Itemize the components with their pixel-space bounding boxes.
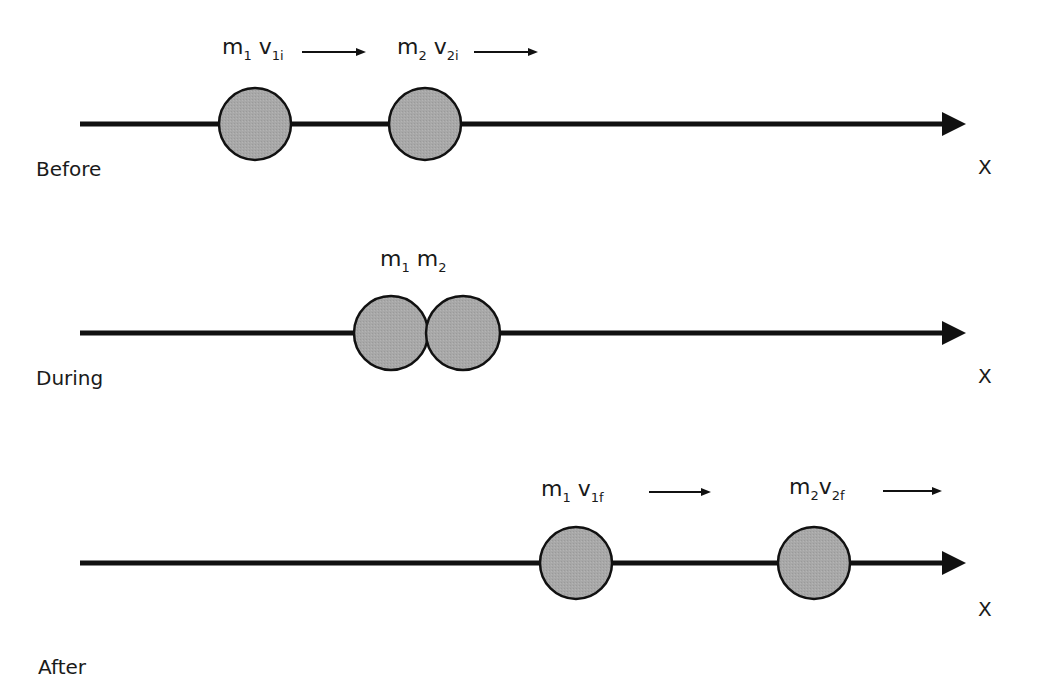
velocity-symbol: v — [434, 34, 447, 59]
velocity-symbol: v — [259, 34, 272, 59]
mass-subscript: 1 — [562, 490, 570, 505]
ball-m1 — [354, 296, 428, 370]
mass-subscript: 2 — [810, 488, 818, 503]
mass-symbol: m — [222, 34, 243, 59]
velocity-subscript: 2i — [447, 48, 459, 63]
mass-symbol: m — [541, 476, 562, 501]
mass-symbol: m — [397, 34, 418, 59]
ball-m1 — [219, 88, 291, 160]
during-row — [80, 296, 966, 370]
velocity-arrowhead-icon — [356, 48, 366, 56]
mass-subscript: 2 — [438, 260, 446, 275]
velocity-subscript: 1i — [272, 48, 284, 63]
velocity-symbol: v — [578, 476, 591, 501]
ball-m1 — [540, 527, 612, 599]
before-row — [80, 48, 966, 160]
label-m1-m2: m1 m2 — [380, 246, 446, 271]
mass-subscript: 1 — [243, 48, 251, 63]
mass-symbol: m — [380, 246, 401, 271]
after-row — [80, 487, 966, 599]
mass-symbol: m — [789, 474, 810, 499]
velocity-arrowhead-icon — [701, 488, 711, 496]
velocity-arrowhead-icon — [932, 487, 942, 495]
mass-subscript: 1 — [401, 260, 409, 275]
axis-arrowhead-icon — [942, 321, 966, 345]
x-axis-label: X — [978, 364, 992, 388]
ball-m2 — [389, 88, 461, 160]
velocity-subscript: 1f — [591, 490, 604, 505]
label-m2-v2i: m2 v2i — [397, 34, 459, 59]
stage-label-after: After — [38, 655, 86, 679]
ball-m2 — [778, 527, 850, 599]
mass-subscript: 2 — [418, 48, 426, 63]
velocity-symbol: v — [819, 474, 832, 499]
label-m1-v1f: m1 v1f — [541, 476, 604, 501]
collision-diagram — [0, 0, 1038, 680]
axis-arrowhead-icon — [942, 551, 966, 575]
ball-m2 — [426, 296, 500, 370]
stage-label-during: During — [36, 366, 103, 390]
velocity-subscript: 2f — [832, 488, 845, 503]
x-axis-label: X — [978, 155, 992, 179]
axis-arrowhead-icon — [942, 112, 966, 136]
label-m2-v2f: m2v2f — [789, 474, 845, 499]
x-axis-label: X — [978, 597, 992, 621]
label-m1-v1i: m1 v1i — [222, 34, 284, 59]
stage-label-before: Before — [36, 157, 101, 181]
mass-symbol: m — [417, 246, 438, 271]
velocity-arrowhead-icon — [528, 48, 538, 56]
